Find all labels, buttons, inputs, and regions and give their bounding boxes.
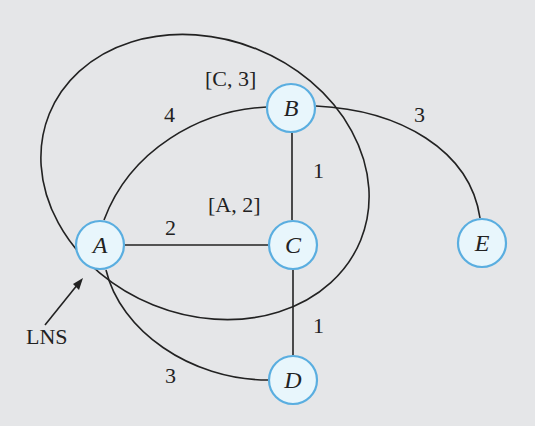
node-d: D xyxy=(269,356,317,404)
lns-ellipse xyxy=(0,0,412,368)
weight-a-d: 3 xyxy=(165,363,176,388)
weight-b-e: 3 xyxy=(414,102,425,127)
weight-a-c: 2 xyxy=(165,215,176,240)
edge-b-e xyxy=(316,106,480,218)
svg-text:C: C xyxy=(285,232,302,258)
node-a: A xyxy=(76,221,124,269)
edge-a-d xyxy=(106,270,268,380)
network-diagram: 4 2 3 1 1 3 [C, 3] [A, 2] LNS A B C D E xyxy=(0,0,535,426)
node-c: C xyxy=(269,221,317,269)
node-e: E xyxy=(458,219,506,267)
c-annotation: [A, 2] xyxy=(208,192,261,217)
svg-text:E: E xyxy=(474,230,490,256)
lns-arrow xyxy=(45,284,78,325)
weight-a-b: 4 xyxy=(164,102,175,127)
svg-text:D: D xyxy=(283,367,301,393)
weight-b-c: 1 xyxy=(313,158,324,183)
svg-text:A: A xyxy=(91,232,108,258)
svg-text:B: B xyxy=(284,95,299,121)
weight-c-d: 1 xyxy=(313,313,324,338)
b-annotation: [C, 3] xyxy=(205,66,256,91)
node-b: B xyxy=(267,84,315,132)
lns-label: LNS xyxy=(26,324,68,349)
